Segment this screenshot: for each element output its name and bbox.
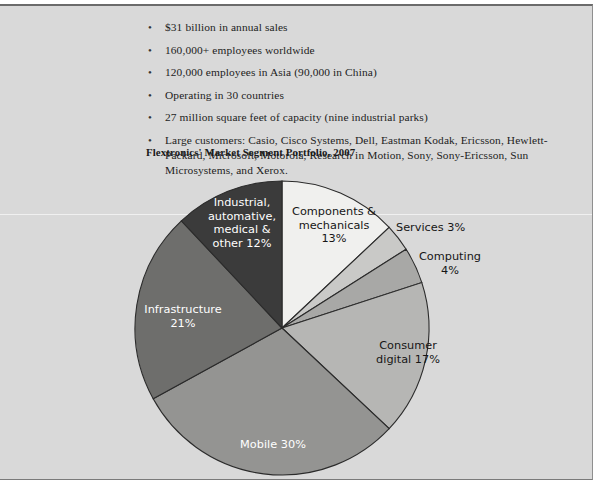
pie-label-services: Services 3% <box>396 221 482 235</box>
pie-label-components-mechanicals: Components & mechanicals 13% <box>284 205 384 246</box>
pie-label-industrial: Industrial, automative, medical & other … <box>196 196 288 250</box>
pie-label-infrastructure: Infrastructure 21% <box>131 303 235 330</box>
pie-label-consumer-digital: Consumer digital 17% <box>366 339 450 366</box>
pie-label-computing: Computing 4% <box>414 250 486 277</box>
document-page: • $31 billion in annual sales • 160,000+… <box>0 0 611 498</box>
pie-label-mobile: Mobile 30% <box>218 438 328 452</box>
scanned-page-area: • $31 billion in annual sales • 160,000+… <box>0 4 593 480</box>
pie-chart: Industrial, automative, medical & other … <box>0 6 593 480</box>
